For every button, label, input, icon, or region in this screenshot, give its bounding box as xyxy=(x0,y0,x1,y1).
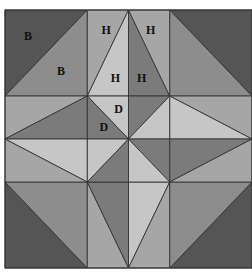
piece-label-h: H xyxy=(111,71,121,85)
piece-label-d: D xyxy=(99,120,108,134)
piece-label-h: H xyxy=(102,23,112,37)
quilt-pieces xyxy=(5,10,252,268)
piece-label-h: H xyxy=(137,71,147,85)
piece-label-h: H xyxy=(146,23,156,37)
piece-label-d: D xyxy=(114,102,123,116)
piece-label-b: B xyxy=(57,64,65,78)
quilt-block-diagram: BBHHHHDD xyxy=(0,0,252,275)
piece-label-b: B xyxy=(24,29,32,43)
